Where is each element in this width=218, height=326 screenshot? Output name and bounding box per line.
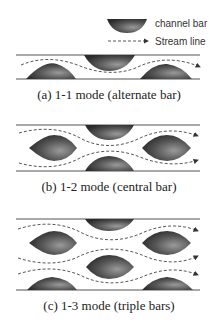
channel-bar-top [84,55,135,71]
channel-bar-central-left [29,135,77,161]
caption-a: (a) 1-1 mode (alternate bar) [37,87,181,102]
channel-bar-upper-left [29,231,77,255]
channel-bar-bottom-left [26,63,76,79]
channel-bar-bottom-right [140,64,192,79]
panel-a-alternate-bar: (a) 1-1 mode (alternate bar) [16,55,200,102]
channel-bar-modes-diagram: channel bar Stream line (a) 1-1 mode (al… [0,0,218,326]
channel-bar-top [85,125,134,140]
channel-bar-top [85,219,134,231]
channel-bar-upper-right [142,231,191,255]
channel-bar-middle [86,255,134,279]
channel-bar-bottom [85,156,134,171]
caption-c: (c) 1-3 mode (triple bars) [43,298,174,313]
channel-bar-bottom-right [142,277,193,290]
channel-bar-bottom-left [27,277,77,290]
legend-bar-icon [107,19,147,33]
panel-c-triple-bars: (c) 1-3 mode (triple bars) [16,219,200,313]
channel-bar-central-right [142,135,191,161]
legend: channel bar Stream line [107,18,208,47]
legend-stream-label: Stream line [155,36,206,47]
panel-b-central-bar: (b) 1-2 mode (central bar) [16,125,200,194]
legend-bar-label: channel bar [155,18,208,29]
caption-b: (b) 1-2 mode (central bar) [42,179,177,194]
